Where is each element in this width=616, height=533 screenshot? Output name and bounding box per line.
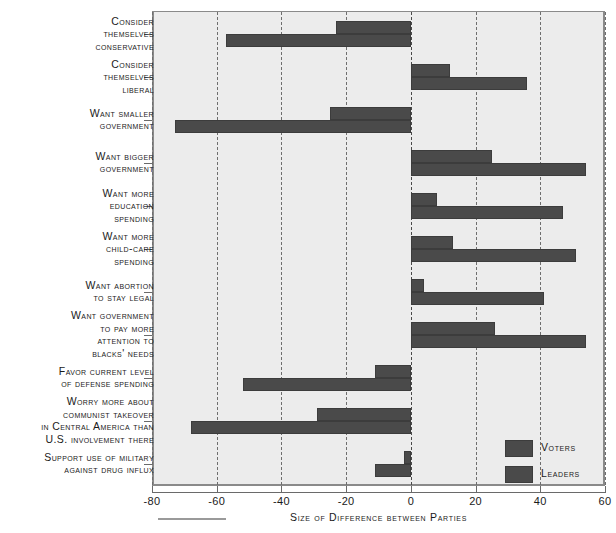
category-label-line: spending — [0, 255, 154, 268]
category-label-line: Want abortion — [0, 279, 154, 292]
category-label: Want abortionto stay legal — [0, 279, 154, 304]
category-label: Worry more aboutcommunist takeoverin Cen… — [0, 395, 154, 445]
bar-leaders — [226, 34, 410, 47]
x-tick-label--20: -20 — [326, 495, 366, 507]
x-tick-0 — [411, 486, 412, 493]
x-tick--40 — [281, 486, 282, 493]
category-label-line: Worry more about — [0, 395, 154, 408]
bar-voters — [336, 21, 410, 34]
category-label-line: Want bigger — [0, 150, 154, 163]
bar-leaders — [411, 77, 527, 90]
bar-voters — [330, 107, 411, 120]
bar-leaders — [411, 292, 544, 305]
legend-entry-leaders: Leaders — [505, 464, 603, 486]
x-tick--80 — [152, 486, 153, 493]
category-label: Support use of militaryagainst drug infl… — [0, 451, 154, 476]
legend: Voters Leaders — [505, 438, 603, 490]
category-label: Want moreeducationspending — [0, 187, 154, 225]
x-tick-label-20: 20 — [456, 495, 496, 507]
category-label-line: child-care — [0, 242, 154, 255]
bar-leaders — [375, 464, 411, 477]
category-label-line: Consider — [0, 58, 154, 71]
category-label-line: Want more — [0, 230, 154, 243]
legend-entry-voters: Voters — [505, 438, 603, 460]
legend-swatch-voters — [505, 440, 533, 457]
x-tick-label--60: -60 — [197, 495, 237, 507]
category-label-line: attention to — [0, 334, 154, 347]
x-tick-label-40: 40 — [520, 495, 560, 507]
category-label-line: spending — [0, 212, 154, 225]
bar-voters — [411, 193, 437, 206]
category-label-line: Favor current level — [0, 365, 154, 378]
chart-root: ConsiderthemselvesconservativeConsiderth… — [0, 0, 616, 533]
category-label-line: conservative — [0, 40, 154, 53]
category-label: Want morechild-carespending — [0, 230, 154, 268]
category-label-line: Want more — [0, 187, 154, 200]
x-axis-line — [152, 492, 605, 493]
category-label-line: government — [0, 119, 154, 132]
category-label-line: Want government — [0, 309, 154, 322]
category-label: Considerthemselvesconservative — [0, 15, 154, 53]
bar-leaders — [411, 249, 576, 262]
bar-leaders — [411, 206, 563, 219]
category-label-line: themselves — [0, 70, 154, 83]
category-label-line: government — [0, 162, 154, 175]
bar-leaders — [411, 163, 586, 176]
bar-voters — [317, 408, 411, 421]
bar-voters — [411, 279, 424, 292]
category-label-line: of defense spending — [0, 377, 154, 390]
bar-leaders — [411, 335, 586, 348]
category-label-line: themselves — [0, 27, 154, 40]
category-label-line: against drug influx — [0, 463, 154, 476]
category-label-line: Consider — [0, 15, 154, 28]
category-label-line: liberal — [0, 83, 154, 96]
footer-rule — [158, 518, 226, 520]
x-tick-20 — [476, 486, 477, 493]
category-label-line: education — [0, 199, 154, 212]
category-label-line: U.S. involvement there — [0, 433, 154, 446]
category-label: Want governmentto pay moreattention tobl… — [0, 309, 154, 359]
legend-label-leaders: Leaders — [541, 467, 580, 479]
bar-leaders — [191, 421, 411, 434]
bar-voters — [404, 451, 410, 464]
bar-leaders — [243, 378, 411, 391]
bar-voters — [411, 322, 495, 335]
x-tick-label--40: -40 — [261, 495, 301, 507]
legend-swatch-leaders — [505, 466, 533, 483]
category-label-line: in Central America than — [0, 420, 154, 433]
category-label-line: Support use of military — [0, 451, 154, 464]
category-label: Want biggergovernment — [0, 150, 154, 175]
bar-voters — [411, 236, 453, 249]
x-tick-label-60: 60 — [585, 495, 616, 507]
x-axis-title: Size of Difference between Parties — [152, 511, 605, 523]
bar-leaders — [175, 120, 411, 133]
category-label: Considerthemselvesliberal — [0, 58, 154, 96]
category-label-line: Want smaller — [0, 107, 154, 120]
category-label-line: blacks' needs — [0, 347, 154, 360]
category-label-line: to stay legal — [0, 291, 154, 304]
x-tick-60 — [605, 486, 606, 493]
x-tick-label-0: 0 — [391, 495, 431, 507]
category-label: Favor current levelof defense spending — [0, 365, 154, 390]
legend-label-voters: Voters — [541, 441, 576, 453]
bar-voters — [375, 365, 411, 378]
x-tick--60 — [217, 486, 218, 493]
category-label: Want smallergovernment — [0, 107, 154, 132]
bar-voters — [411, 150, 492, 163]
gridline-60 — [605, 12, 606, 485]
category-label-line: communist takeover — [0, 408, 154, 421]
x-tick--20 — [346, 486, 347, 493]
bar-voters — [411, 64, 450, 77]
category-label-line: to pay more — [0, 322, 154, 335]
x-tick-label--80: -80 — [132, 495, 172, 507]
